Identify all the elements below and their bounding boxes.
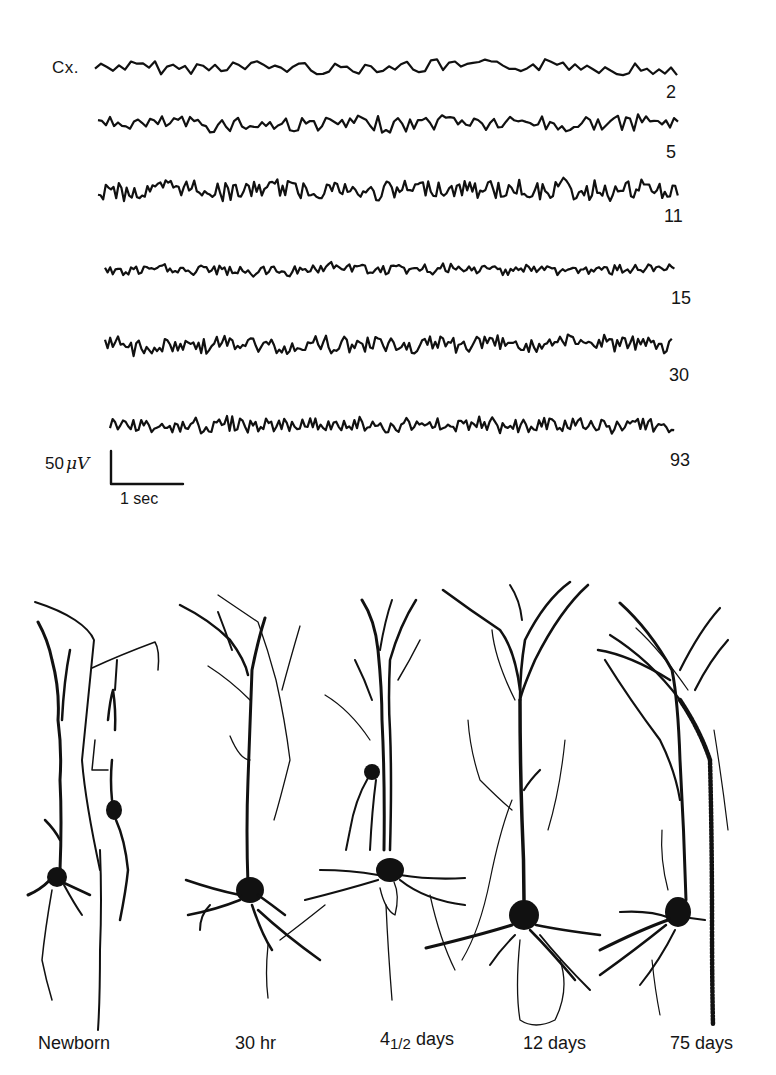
neuron-label-12-days: 12 days: [523, 1033, 586, 1054]
neuron-drawings-panel: [0, 0, 776, 1075]
neuron-75-days: [598, 603, 728, 1025]
neuron-4-5-days: [305, 600, 465, 1000]
neuron-30hr: [180, 595, 325, 998]
scale-bar: [111, 451, 183, 484]
neuron-12-days: [426, 582, 600, 1025]
neuron-label-30hr: 30 hr: [235, 1033, 276, 1054]
neuron-label-75-days: 75 days: [670, 1033, 733, 1054]
neuron-label-newborn: Newborn: [38, 1033, 110, 1054]
neuron-label-4-5-days: 41/2 days: [380, 1029, 454, 1050]
neuron-newborn: [28, 602, 159, 1030]
figure: Cx. 2 5 11 15 30 93 50μV 1 sec: [0, 0, 776, 1075]
